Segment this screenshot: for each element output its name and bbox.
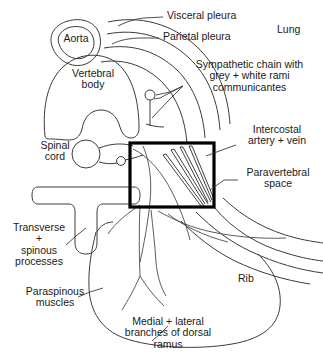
label-vertebral-body: Vertebral body — [62, 68, 124, 91]
nerve-root-and-ganglion — [99, 144, 143, 165]
leader-visceral-pleura — [118, 17, 163, 26]
label-spinal-cord: Spinal cord — [32, 140, 78, 163]
label-visceral-pleura: Visceral pleura — [167, 10, 236, 21]
leader-parietal-pleura — [112, 38, 159, 44]
label-paravertebral-space: Paravertebral space — [235, 167, 321, 190]
label-paraspinous-muscles: Paraspinous muscles — [16, 286, 94, 309]
label-intercostal-vessels: Intercostal artery + vein — [233, 124, 321, 147]
dorsal-ramus-nerve — [122, 206, 166, 310]
label-dorsal-ramus: Medial + lateral branches of dorsal ramu… — [108, 316, 228, 350]
label-rib: Rib — [238, 273, 254, 284]
label-transverse-spinous: Transverse + spinous processes — [4, 222, 74, 268]
paravertebral-anatomy-diagram: Visceral pleura Parietal pleura Lung Aor… — [0, 0, 323, 363]
block-needles — [163, 146, 214, 206]
label-parietal-pleura: Parietal pleura — [163, 31, 231, 42]
label-sympathetic-chain: Sympathetic chain with grey + white rami… — [178, 59, 321, 93]
label-aorta: Aorta — [55, 33, 97, 44]
label-lung: Lung — [277, 24, 300, 35]
leader-intercostal-vessels — [206, 145, 236, 156]
